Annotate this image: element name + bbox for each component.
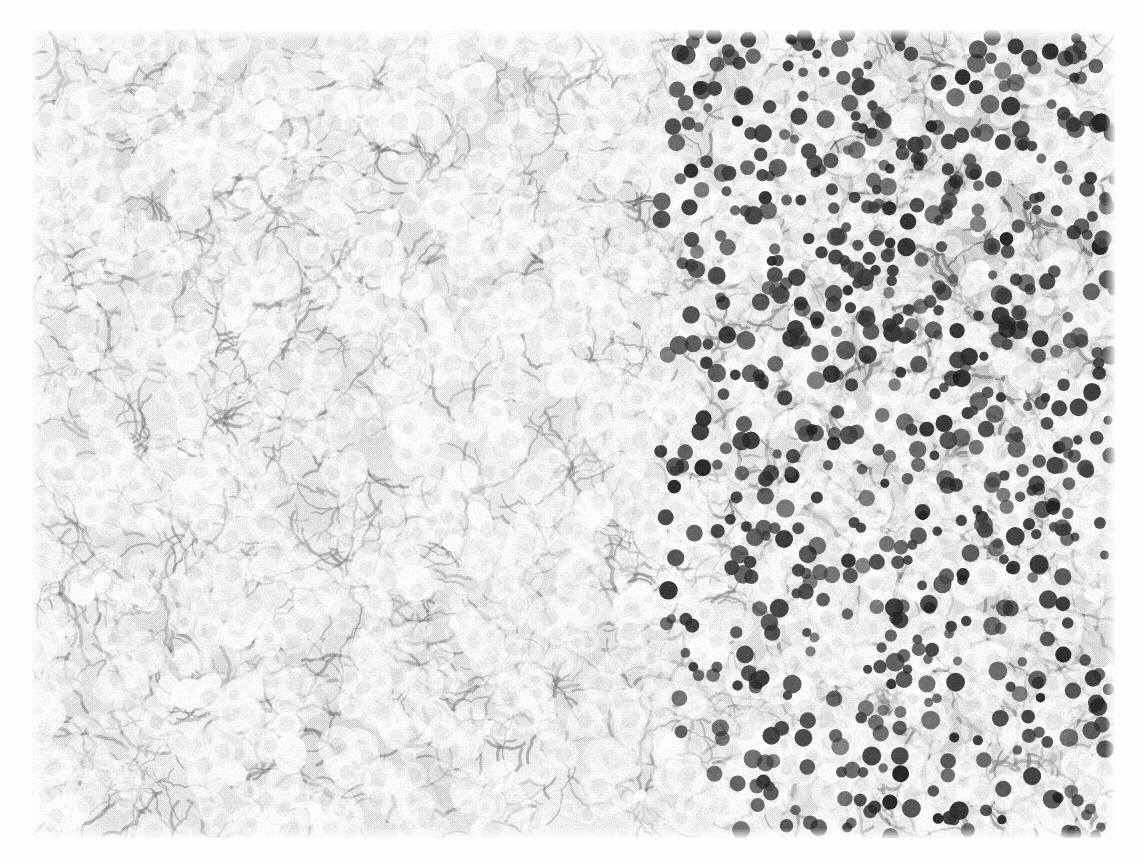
micrograph-canvas [32, 30, 1115, 838]
page-right-margin [1115, 0, 1144, 860]
page-left-margin [0, 0, 32, 860]
page-bottom-margin [0, 838, 1144, 860]
micrograph-figure [32, 30, 1115, 838]
page-top-margin [0, 0, 1144, 30]
page-canvas [0, 0, 1144, 860]
